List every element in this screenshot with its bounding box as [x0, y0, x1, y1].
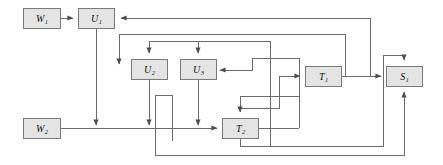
node-S1-label: S1 — [400, 72, 409, 82]
edge-layer — [0, 0, 443, 165]
node-W1-label: W1 — [36, 14, 48, 24]
node-U3[interactable]: U3 — [180, 59, 217, 80]
node-W2[interactable]: W2 — [23, 118, 61, 139]
node-T2-label: T2 — [236, 124, 245, 134]
edge-bus-41-to-u2-top — [149, 41, 270, 53]
node-U2-label: U2 — [144, 65, 155, 75]
node-U3-label: U3 — [193, 65, 204, 75]
node-W1[interactable]: W1 — [23, 8, 61, 29]
edge-into-u3-right — [220, 58, 299, 70]
node-U1-label: U1 — [91, 14, 102, 24]
node-T1-label: T1 — [319, 72, 328, 82]
node-U2[interactable]: U2 — [131, 59, 168, 80]
node-U1[interactable]: U1 — [78, 8, 115, 29]
node-T1[interactable]: T1 — [305, 66, 342, 87]
diagram-canvas: W1 U1 U2 U3 T1 S1 W2 T2 — [0, 0, 443, 165]
node-W2-label: W2 — [36, 124, 48, 134]
node-T2[interactable]: T2 — [222, 118, 259, 139]
node-S1[interactable]: S1 — [386, 66, 423, 87]
edge-u2-jog — [155, 95, 172, 141]
edge-into-t1-left — [238, 76, 300, 108]
